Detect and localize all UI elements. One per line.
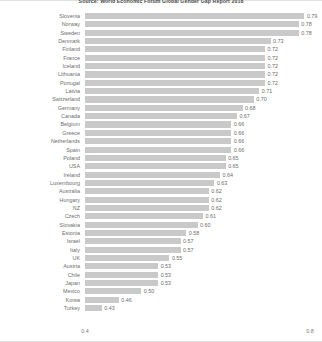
bar-track: 0.73	[85, 37, 310, 45]
chart-source-title: Source: World Economic Forum Global Gend…	[0, 0, 322, 4]
bar	[85, 147, 231, 153]
bar	[85, 138, 231, 144]
bar-value-label: 0.50	[141, 287, 154, 295]
category-label: Canada	[0, 112, 82, 120]
bar	[85, 121, 231, 127]
bar-row: Switzerland0.70	[0, 95, 322, 103]
bar	[85, 288, 141, 294]
bar-value-label: 0.57	[181, 246, 194, 254]
category-label: Slovenia	[0, 12, 82, 20]
category-label: Slovakia	[0, 221, 82, 229]
category-label: Switzerland	[0, 95, 82, 103]
category-label: Iceland	[0, 62, 82, 70]
bar	[85, 188, 209, 194]
bar-track: 0.57	[85, 237, 310, 245]
x-tick-label: 0.4	[81, 328, 89, 334]
bar-row: Belgium0.66	[0, 120, 322, 128]
bar-row: Germany0.68	[0, 104, 322, 112]
category-label: Italy	[0, 246, 82, 254]
bar-row: Japan0.53	[0, 279, 322, 287]
bar-row: Luxembourg0.63	[0, 179, 322, 187]
bar-value-label: 0.66	[231, 146, 244, 154]
bar-value-label: 0.66	[231, 120, 244, 128]
bar-track: 0.66	[85, 120, 310, 128]
bar-row: Netherlands0.66	[0, 137, 322, 145]
bar-row: Slovakia0.60	[0, 221, 322, 229]
bar-track: 0.53	[85, 271, 310, 279]
category-label: Israel	[0, 237, 82, 245]
plot-area: Slovenia0.79Norway0.78Sweden0.78Denmark0…	[0, 12, 322, 325]
bar-row: Australia0.62	[0, 187, 322, 195]
bar	[85, 263, 158, 269]
bar-row: Portugal0.72	[0, 79, 322, 87]
category-label: Turkey	[0, 304, 82, 312]
bar-value-label: 0.53	[158, 279, 171, 287]
bar-row: Slovenia0.79	[0, 12, 322, 20]
bar-value-label: 0.67	[237, 112, 250, 120]
bar-value-label: 0.62	[209, 187, 222, 195]
category-label: Chile	[0, 271, 82, 279]
category-label: Netherlands	[0, 137, 82, 145]
bar-track: 0.65	[85, 162, 310, 170]
bar-value-label: 0.43	[102, 304, 115, 312]
bar-value-label: 0.57	[181, 237, 194, 245]
bar-row: UK0.55	[0, 254, 322, 262]
bar-row: Poland0.65	[0, 154, 322, 162]
bar	[85, 13, 304, 19]
category-label: Denmark	[0, 37, 82, 45]
bar	[85, 238, 181, 244]
bar	[85, 21, 299, 27]
bar-value-label: 0.53	[158, 271, 171, 279]
bar-row: Mexico0.50	[0, 287, 322, 295]
bar-value-label: 0.72	[265, 54, 278, 62]
bar-value-label: 0.63	[214, 179, 227, 187]
bar-row: Italy0.57	[0, 246, 322, 254]
bar-track: 0.72	[85, 62, 310, 70]
bar-value-label: 0.62	[209, 196, 222, 204]
bar	[85, 230, 186, 236]
category-label: Germany	[0, 104, 82, 112]
bar-track: 0.60	[85, 221, 310, 229]
bar-chart: Source: World Economic Forum Global Gend…	[0, 0, 322, 342]
bar-row: Canada0.67	[0, 112, 322, 120]
category-label: Lithuania	[0, 70, 82, 78]
bar	[85, 38, 271, 44]
bar	[85, 272, 158, 278]
bar	[85, 205, 209, 211]
bar	[85, 63, 265, 69]
bar-track: 0.62	[85, 204, 310, 212]
bar-row: Estonia0.58	[0, 229, 322, 237]
bar	[85, 163, 226, 169]
category-label: Portugal	[0, 79, 82, 87]
bar-row: Lithuania0.72	[0, 70, 322, 78]
bar-track: 0.57	[85, 246, 310, 254]
category-label: Luxembourg	[0, 179, 82, 187]
bar-track: 0.67	[85, 112, 310, 120]
bar-value-label: 0.65	[226, 162, 239, 170]
bar	[85, 130, 231, 136]
bar-value-label: 0.58	[186, 229, 199, 237]
bar-row: Iceland0.72	[0, 62, 322, 70]
category-label: France	[0, 54, 82, 62]
bar-value-label: 0.71	[259, 87, 272, 95]
bar-track: 0.79	[85, 12, 310, 20]
bar	[85, 96, 254, 102]
bar-value-label: 0.46	[119, 296, 132, 304]
bar-track: 0.78	[85, 20, 310, 28]
category-label: Belgium	[0, 120, 82, 128]
bar-row: Turkey0.43	[0, 304, 322, 312]
bar-row: NZ0.62	[0, 204, 322, 212]
bar-track: 0.53	[85, 262, 310, 270]
category-label: Estonia	[0, 229, 82, 237]
bar-row: Ireland0.64	[0, 171, 322, 179]
bar-value-label: 0.72	[265, 79, 278, 87]
bar-track: 0.65	[85, 154, 310, 162]
bar-row: USA0.65	[0, 162, 322, 170]
category-label: USA	[0, 162, 82, 170]
bar	[85, 255, 169, 261]
bar	[85, 305, 102, 311]
bar	[85, 280, 158, 286]
bar	[85, 105, 243, 111]
category-label: Poland	[0, 154, 82, 162]
bar-track: 0.71	[85, 87, 310, 95]
